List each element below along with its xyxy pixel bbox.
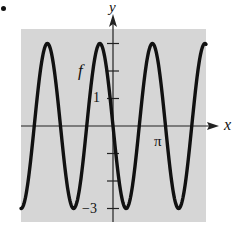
- function-label-f: f: [78, 62, 83, 79]
- x-tick-label-pi: π: [154, 134, 162, 149]
- y-tick-label-neg3: −3: [82, 202, 97, 216]
- y-axis-label: y: [109, 0, 116, 15]
- function-graph: [0, 0, 243, 229]
- x-axis-label: x: [224, 117, 231, 133]
- y-tick-label-1: 1: [93, 91, 100, 105]
